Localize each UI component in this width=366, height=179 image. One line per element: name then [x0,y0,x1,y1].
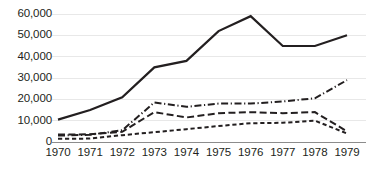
x-tick-label: 1975 [206,147,231,159]
series-line-series-short-dash [58,121,347,139]
x-tick-label: 1973 [142,147,167,159]
y-tick-label: 30,000 [17,72,52,84]
y-tick-label: 60,000 [17,8,52,20]
x-axis-tick-labels: 1970197119721973197419751976197719781979 [0,147,366,167]
x-tick-label: 1970 [45,147,70,159]
series-line-series-dash-dot [58,80,347,135]
x-tick-label: 1976 [238,147,263,159]
series-line-series-solid [58,16,347,119]
x-tick-label: 1974 [174,147,199,159]
line-chart: 010,00020,00030,00040,00050,00060,000 19… [0,0,366,179]
x-tick-label: 1978 [302,147,327,159]
x-tick-label: 1972 [110,147,135,159]
y-tick-label: 10,000 [17,115,52,127]
y-tick-label: 50,000 [17,29,52,41]
y-tick-label: 20,000 [17,93,52,105]
x-tick-label: 1979 [334,147,359,159]
x-tick-label: 1971 [78,147,103,159]
x-tick-label: 1977 [270,147,295,159]
y-tick-label: 40,000 [17,51,52,63]
series-line-series-long-dash [58,112,347,134]
